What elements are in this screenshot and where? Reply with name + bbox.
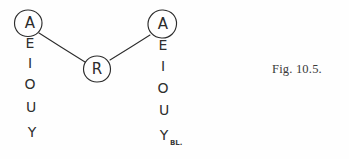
right-vowel-column: A E I O U Y bbox=[157, 15, 169, 143]
edge-group bbox=[39, 33, 150, 62]
right-column-letter-e: E bbox=[159, 37, 168, 53]
left-column-letter-o: O bbox=[24, 76, 35, 92]
right-column-letter-u: U bbox=[159, 102, 169, 118]
ink-smudge-annotation: BL. bbox=[170, 139, 182, 147]
left-column-letter-e: E bbox=[26, 35, 35, 51]
right-column-letter-i: I bbox=[161, 58, 165, 74]
right-column-letter-o: O bbox=[157, 80, 168, 96]
edge-r-to-right-a bbox=[110, 35, 150, 60]
node-center-r-label: R bbox=[92, 60, 102, 78]
figure-caption: Fig. 10.5. bbox=[272, 62, 322, 77]
right-column-letter-a: A bbox=[158, 15, 169, 33]
left-vowel-column: A E I O U Y bbox=[24, 14, 36, 140]
left-column-letter-u: U bbox=[26, 99, 36, 115]
edge-left-a-to-r bbox=[39, 33, 85, 62]
figure-container: A E I O U Y A E I O U Y R BL. Fig. 10.5. bbox=[0, 0, 349, 159]
hand-drawn-diagram: A E I O U Y A E I O U Y R BL. bbox=[0, 0, 349, 159]
left-column-letter-a: A bbox=[25, 14, 36, 32]
right-column-letter-y: Y bbox=[159, 127, 169, 143]
left-column-letter-y: Y bbox=[27, 124, 37, 140]
left-column-letter-i: I bbox=[28, 55, 32, 71]
